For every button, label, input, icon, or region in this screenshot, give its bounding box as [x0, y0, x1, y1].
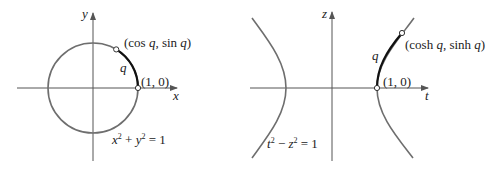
point-end-label: (cos q, sin q) [124, 35, 191, 50]
arc-label: q [372, 48, 379, 63]
x-axis-label: x [172, 88, 179, 103]
y-axis-label: y [80, 6, 88, 21]
equation-label: x2 + y2 = 1 [111, 132, 166, 147]
point-start-label: (1, 0) [141, 74, 169, 89]
arc-label: q [120, 60, 127, 75]
point-cosh-sinh [399, 30, 404, 35]
z-axis-label: z [321, 6, 327, 21]
hyperbola-diagram: z t (cosh q, sinh q) q (1, 0) t2 − z2 = … [250, 6, 485, 161]
equation-label: t2 − z2 = 1 [267, 136, 318, 151]
figure: y x (cos q, sin q) q (1, 0) x2 + y2 = 1 … [0, 0, 499, 170]
point-start-label: (1, 0) [383, 74, 411, 89]
t-axis-label: t [425, 88, 429, 103]
point-1-0 [135, 85, 140, 90]
point-cos-sin [114, 47, 119, 52]
circle-diagram: y x (cos q, sin q) q (1, 0) x2 + y2 = 1 [17, 6, 191, 161]
point-end-label: (cosh q, sinh q) [405, 37, 485, 52]
point-1-0 [374, 85, 379, 90]
